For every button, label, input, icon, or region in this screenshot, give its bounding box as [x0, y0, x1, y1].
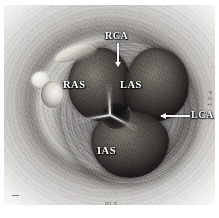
corner-tick-mark: [12, 195, 19, 197]
central-core-shadow: [102, 103, 129, 129]
anatomical-figure: P S 1 PLS RCA RAS LAS IAS LCA: [0, 0, 219, 218]
bright-vessel-lower-left: [41, 81, 64, 108]
image-plate: P S 1 PLS: [4, 5, 215, 205]
